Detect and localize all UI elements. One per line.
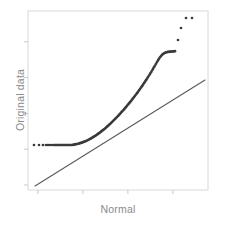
qq-plot-figure: Original data Normal <box>0 0 225 228</box>
y-axis-label: Original data <box>14 10 26 190</box>
x-axis-label: Normal <box>28 203 208 215</box>
plot-frame <box>28 11 208 190</box>
axis-ticks <box>24 42 173 194</box>
data-points <box>33 17 194 147</box>
reference-line <box>35 80 205 186</box>
qq-plot-canvas <box>0 0 225 228</box>
